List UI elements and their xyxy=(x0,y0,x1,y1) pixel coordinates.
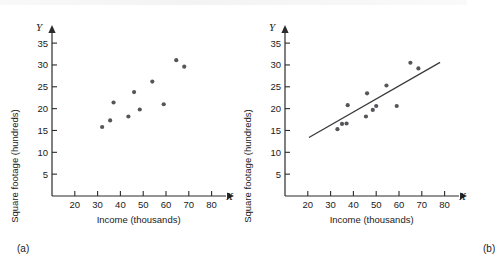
data-point xyxy=(182,65,186,69)
y-axis-arrow xyxy=(281,25,288,33)
y-tick-label: 10 xyxy=(37,147,48,158)
y-tick-label: 15 xyxy=(270,125,281,136)
y-axis-arrow xyxy=(48,25,55,33)
y-tick-label: 5 xyxy=(43,169,48,180)
x-tick-label: 80 xyxy=(206,199,217,210)
y-tick-label: 35 xyxy=(270,38,281,49)
data-point xyxy=(335,127,339,131)
data-point xyxy=(132,90,136,94)
data-point xyxy=(408,61,412,65)
data-point xyxy=(416,66,420,70)
panel-b-plot: YX510152025303520304050607080Income (tho… xyxy=(233,0,467,240)
y-tick-label: 20 xyxy=(37,103,48,114)
x-tick-label: 40 xyxy=(115,199,126,210)
y-tick-label: 10 xyxy=(270,147,281,158)
data-point xyxy=(365,91,369,95)
data-point xyxy=(364,114,368,118)
panel-a: YX510152025303520304050607080Income (tho… xyxy=(0,0,234,273)
data-point xyxy=(138,107,142,111)
x-tick-label: 50 xyxy=(138,199,149,210)
y-tick-label: 25 xyxy=(270,81,281,92)
data-point xyxy=(100,125,104,129)
data-point xyxy=(111,100,115,104)
data-point xyxy=(126,114,130,118)
data-point xyxy=(108,118,112,122)
x-tick-label: 40 xyxy=(348,199,359,210)
x-tick-label: 60 xyxy=(161,199,172,210)
data-point xyxy=(344,121,348,125)
panel-a-caption: (a) xyxy=(17,243,29,254)
x-tick-label: 50 xyxy=(371,199,382,210)
data-point xyxy=(340,122,344,126)
x-tick-label: 80 xyxy=(439,199,450,210)
x-tick-label: 60 xyxy=(394,199,405,210)
y-tick-label: 35 xyxy=(37,38,48,49)
panel-b: YX510152025303520304050607080Income (tho… xyxy=(233,0,467,273)
x-tick-label: 70 xyxy=(184,199,195,210)
y-axis-title: Square footage (hundreds) xyxy=(9,109,20,223)
regression-line xyxy=(309,62,440,137)
y-tick-label: 20 xyxy=(270,103,281,114)
panel-b-caption: (b) xyxy=(483,243,495,254)
data-point xyxy=(374,104,378,108)
data-point xyxy=(384,83,388,87)
y-axis-title: Square footage (hundreds) xyxy=(242,109,253,223)
y-axis-name: Y xyxy=(269,21,277,33)
data-point xyxy=(395,104,399,108)
y-axis-name: Y xyxy=(36,21,44,33)
y-tick-label: 5 xyxy=(276,169,281,180)
y-tick-label: 25 xyxy=(37,81,48,92)
y-tick-label: 15 xyxy=(37,125,48,136)
y-tick-label: 30 xyxy=(37,59,48,70)
x-tick-label: 30 xyxy=(325,199,336,210)
x-axis-title: Income (thousands) xyxy=(97,214,181,225)
y-tick-label: 30 xyxy=(270,59,281,70)
data-point xyxy=(174,58,178,62)
x-tick-label: 30 xyxy=(92,199,103,210)
x-tick-label: 20 xyxy=(303,199,314,210)
x-axis-name: X xyxy=(458,190,467,202)
x-tick-label: 20 xyxy=(70,199,81,210)
data-point xyxy=(162,102,166,106)
panel-a-plot: YX510152025303520304050607080Income (tho… xyxy=(0,0,234,240)
data-point xyxy=(371,108,375,112)
data-point xyxy=(150,79,154,83)
x-axis-title: Income (thousands) xyxy=(330,214,414,225)
data-point xyxy=(346,103,350,107)
x-tick-label: 70 xyxy=(417,199,428,210)
